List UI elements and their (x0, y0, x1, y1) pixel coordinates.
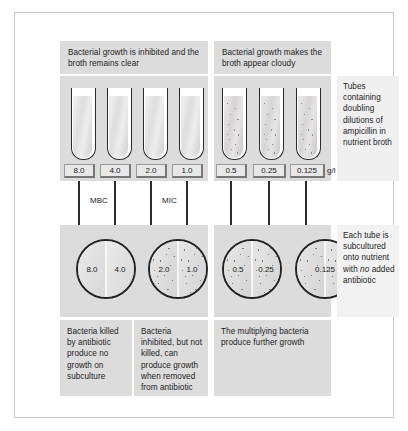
tube-rim (223, 88, 245, 96)
tube-rim (180, 88, 202, 96)
dish-label-right: 1.0 (178, 265, 206, 274)
concentration-label-5: 0.5 (216, 164, 247, 178)
dish-label-left: 8.0 (78, 265, 106, 274)
concentration-label-2: 4.0 (100, 164, 131, 178)
tube-rim (260, 88, 282, 96)
dish-label-left: 2.0 (150, 265, 178, 274)
tube-broth (73, 96, 92, 158)
tube-rim (72, 88, 94, 96)
bottom-caption-a-text: Bacteria killed by antibiotic produce no… (67, 326, 127, 382)
petri-dish-1: 8.0 4.0 (76, 239, 136, 299)
concentration-label-7: 0.125 (290, 164, 325, 178)
test-tube-3 (143, 88, 168, 160)
mic-marker-label: MIC (162, 196, 177, 205)
concentration-unit-label: g/l (327, 166, 335, 175)
test-tube-4 (179, 88, 204, 160)
subculture-note-panel: Each tube is subcultured onto nutrient w… (337, 225, 399, 317)
bottom-caption-panel-b: Bacteria inhibited, but not killed, can … (134, 320, 208, 396)
figure-root: Bacterial growth is inhibited and the br… (0, 0, 408, 431)
tube-rim (108, 88, 130, 96)
concentration-label-1: 8.0 (64, 164, 95, 178)
right-header-panel: Bacterial growth makes the broth appear … (214, 41, 331, 74)
dish-label-right: 4.0 (106, 265, 134, 274)
figure-frame: Bacterial growth is inhibited and the br… (14, 12, 394, 418)
tube-broth (298, 96, 317, 158)
mbc-marker-label: MBC (90, 196, 108, 205)
clear-tubes-panel: 8.0 4.0 2.0 1.0 (60, 76, 208, 181)
left-header-text: Bacterial growth is inhibited and the br… (68, 47, 203, 69)
test-tube-1 (71, 88, 96, 160)
dish-label-right: 0.25 (252, 265, 280, 274)
subculture-note-text: Each tube is subcultured onto nutrient w… (343, 230, 396, 286)
tube-broth (181, 96, 200, 158)
tube-rim (144, 88, 166, 96)
concentration-label-3: 2.0 (136, 164, 167, 178)
test-tube-2 (107, 88, 132, 160)
tube-rim (297, 88, 319, 96)
petri-dish-2: 2.0 1.0 (148, 239, 208, 299)
left-header-panel: Bacterial growth is inhibited and the br… (60, 41, 208, 74)
test-tube-7 (296, 88, 321, 160)
concentration-label-4: 1.0 (172, 164, 203, 178)
bottom-caption-c-text: The multiplying bacteria produce further… (221, 326, 326, 348)
petri-dish-3: 0.5 0.25 (222, 239, 282, 299)
concentration-label-6: 0.25 (253, 164, 286, 178)
subculture-note-emphasis: no (360, 265, 369, 274)
dish-label-left: 0.5 (224, 265, 252, 274)
right-dishes-panel: 0.5 0.25 0.125 (214, 225, 331, 317)
tubes-note-text: Tubes containing doubling dilutions of a… (343, 81, 396, 148)
bottom-caption-panel-c: The multiplying bacteria produce further… (214, 320, 331, 396)
cloudy-tubes-panel: 0.5 0.25 0.125 g/l (214, 76, 331, 181)
bottom-caption-b-text: Bacteria inhibited, but not killed, can … (141, 326, 203, 393)
tube-broth (145, 96, 164, 158)
right-header-text: Bacterial growth makes the broth appear … (222, 47, 326, 69)
tubes-note-panel: Tubes containing doubling dilutions of a… (337, 76, 399, 181)
tube-broth (261, 96, 280, 158)
left-dishes-panel: 8.0 4.0 2.0 1.0 (60, 225, 208, 317)
bottom-caption-panel-a: Bacteria killed by antibiotic produce no… (60, 320, 132, 396)
tube-broth (109, 96, 128, 158)
test-tube-5 (222, 88, 247, 160)
tube-broth (224, 96, 243, 158)
test-tube-6 (259, 88, 284, 160)
